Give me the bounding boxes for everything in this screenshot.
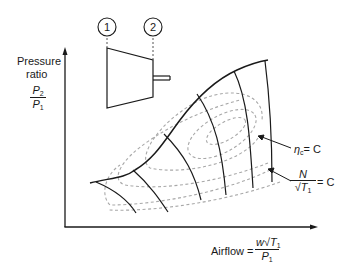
y-axis-label-line2: ratio (26, 68, 47, 80)
p2-symbol: P (32, 84, 39, 96)
annotation-arrows (258, 135, 291, 181)
efficiency-contours (105, 93, 280, 210)
station-2-label: 2 (150, 21, 156, 33)
compressor-map-diagram (0, 0, 341, 279)
y-axis-fraction: P2 P1 (30, 84, 46, 111)
y-axis-label-line1: Pressure (17, 55, 61, 67)
surge-line (90, 60, 268, 183)
p1-symbol: P (32, 98, 39, 110)
speed-lines (96, 61, 272, 213)
station-markers (107, 38, 153, 60)
speed-annotation-fraction: N √T1 (290, 168, 316, 194)
compressor-schematic (107, 48, 170, 108)
speed-annotation-rhs: = C (317, 176, 334, 188)
axes (64, 52, 315, 227)
efficiency-annotation: ηc= C (294, 143, 321, 159)
station-1-label: 1 (104, 21, 110, 33)
x-axis-arrow-icon (310, 225, 318, 230)
y-axis-arrow-icon (63, 47, 68, 55)
x-axis-fraction: w√T1 P1 (255, 236, 279, 263)
x-axis-label: Airflow = (211, 245, 254, 257)
